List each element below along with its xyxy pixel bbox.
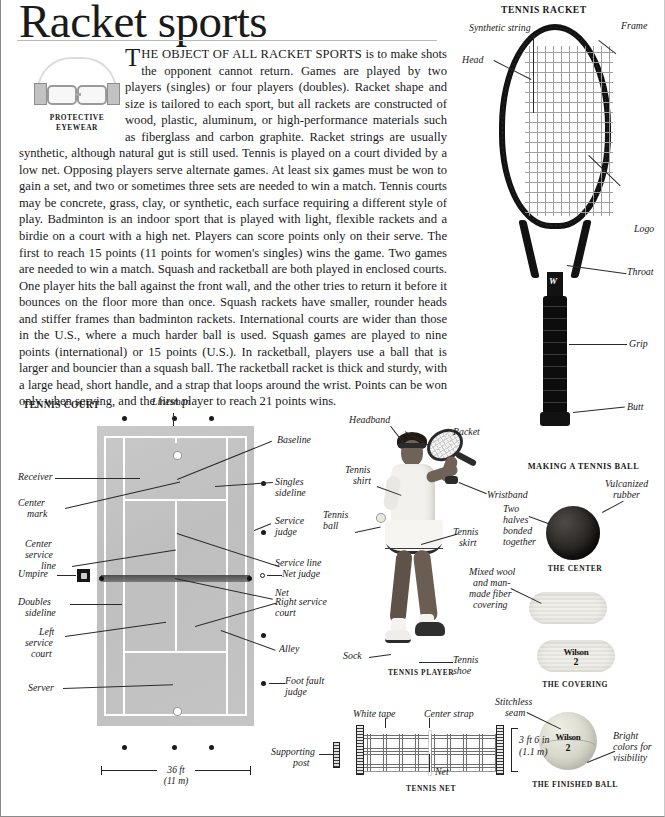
leader-vulcanized-rubber: [602, 501, 624, 513]
label-bright-3: visibility: [613, 752, 647, 764]
eyewear-caption-line2: EYEWEAR: [29, 123, 125, 133]
racket-butt-cap: [540, 412, 570, 426]
label-butt: Butt: [627, 401, 643, 413]
label-service-judge-1: Service: [275, 515, 304, 527]
label-left-service-3: court: [31, 648, 52, 660]
tennis-court-title: TENNIS COURT: [23, 400, 100, 410]
lead-smallcaps: HE OBJECT OF ALL RACKET SPORTS: [141, 47, 362, 61]
court-linesman-dot-br: [209, 745, 214, 750]
label-racket: Racket: [453, 426, 480, 438]
label-foot-fault-2: judge: [285, 686, 307, 698]
label-linesman: Linesman: [152, 396, 190, 408]
racket-frame-oval: [499, 24, 611, 229]
court-net-post-right: [247, 576, 252, 581]
leader-linesman: [173, 413, 174, 426]
label-umpire: Umpire: [18, 568, 48, 580]
court-width-dimension: 36 ft (11 m): [101, 764, 251, 786]
racket-brand-logo: W: [549, 276, 557, 286]
label-vulcanized-1: Vulcanized: [605, 478, 648, 490]
label-tennis-shirt-2: shirt: [353, 475, 371, 487]
label-server: Server: [28, 682, 54, 694]
label-tennis-ball-1: Tennis: [323, 509, 348, 521]
label-doubles-sideline-1: Doubles: [18, 596, 51, 608]
leader-supporting-post: [319, 754, 333, 755]
racket-throat-arm-left: [518, 220, 539, 278]
label-white-tape: White tape: [353, 708, 396, 720]
label-bright-2: colors for: [613, 741, 652, 753]
eyewear-illustration: [29, 55, 125, 113]
court-server-marker: [174, 708, 181, 715]
net-mesh: [364, 728, 496, 772]
court-foot-fault-judge-dot: [261, 681, 266, 686]
eyewear-lens-left: [47, 85, 77, 105]
making-ball-title: MAKING A TENNIS BALL: [501, 462, 665, 471]
player-leg-right: [413, 549, 439, 623]
player-leg-left: [389, 549, 413, 624]
label-sock: Sock: [343, 650, 362, 662]
leader-foot-fault-judge: [269, 683, 285, 684]
label-headband: Headband: [349, 414, 390, 426]
tennis-net-panel: White tape Center strap Net Supporting p…: [331, 706, 531, 811]
court-receiver-marker: [174, 452, 181, 459]
label-logo: Logo: [634, 223, 654, 235]
label-right-service-2: court: [275, 607, 296, 619]
leader-synthetic-string-2: [533, 51, 534, 113]
eyewear-caption-line1: PROTECTIVE: [29, 113, 125, 123]
label-vulcanized-2: rubber: [613, 489, 640, 501]
ball-finished-caption: THE FINISHED BALL: [521, 780, 629, 789]
leader-umpire: [57, 575, 76, 576]
tennis-player-panel: Headband Racket Tennis shirt Wristband T…: [341, 414, 501, 704]
tennis-court-illustration: [97, 426, 254, 726]
tennis-player-caption: TENNIS PLAYER: [341, 668, 501, 678]
label-receiver: Receiver: [18, 471, 53, 483]
leader-synthetic-string: [533, 37, 534, 51]
court-center-mark-top: [175, 436, 177, 443]
label-tennis-shoe-1: Tennis: [453, 654, 478, 666]
court-linesman-dot-left: [122, 416, 127, 421]
net-supporting-post-shape: [333, 742, 340, 768]
label-baseline: Baseline: [277, 434, 311, 446]
covering-number: 2: [537, 656, 615, 667]
player-skirt-shape: [385, 520, 443, 554]
leader-receiver: [55, 478, 140, 479]
leader-grip: [569, 344, 627, 345]
racket-throat-arm-right: [570, 220, 591, 278]
player-shoe-right: [415, 622, 445, 636]
label-doubles-sideline-2: sideline: [25, 607, 56, 619]
label-net-part: Net: [435, 766, 449, 778]
label-mixed-wool-2: and man-: [473, 577, 511, 589]
racket-throat-shape: [525, 220, 585, 276]
label-mixed-wool-1: Mixed wool: [469, 566, 515, 578]
label-singles-sideline-2: sideline: [275, 487, 306, 499]
ball-covering-piece-bottom: Wilson 2: [537, 640, 615, 672]
label-net-judge: Net judge: [282, 568, 320, 580]
label-tennis-ball-2: ball: [323, 520, 338, 532]
label-frame: Frame: [621, 20, 647, 32]
label-throat: Throat: [627, 266, 654, 278]
court-dimension-m: (11 m): [101, 775, 251, 786]
label-two-halves-1: Two: [503, 503, 519, 515]
label-grip: Grip: [629, 338, 648, 350]
racket-strings: [525, 46, 613, 216]
label-head: Head: [462, 54, 483, 66]
label-singles-sideline-1: Singles: [275, 476, 304, 488]
ball-rubber-core: [546, 506, 600, 560]
court-net-post-left: [99, 576, 104, 581]
label-net-height-m: (1.1 m): [519, 746, 548, 758]
label-service-line: Service line: [275, 557, 321, 569]
leader-net-part: [429, 754, 430, 772]
net-height-brace: [511, 728, 512, 772]
tennis-net-illustration: [356, 728, 504, 772]
tennis-racket-illustration: W: [491, 24, 621, 419]
label-two-halves-2: halves: [503, 514, 528, 526]
net-post-left: [356, 725, 364, 775]
label-two-halves-3: bonded: [503, 525, 532, 537]
label-center-mark-2: mark: [27, 508, 47, 520]
court-linesman-dot-right: [209, 416, 214, 421]
court-service-judge-dot: [261, 530, 266, 535]
title-divider: [17, 40, 437, 41]
eyewear-bridge: [75, 93, 81, 96]
ball-covering-piece-top: [529, 592, 607, 624]
court-linesman-dot-bc: [172, 745, 177, 750]
drop-cap: T: [125, 46, 141, 68]
